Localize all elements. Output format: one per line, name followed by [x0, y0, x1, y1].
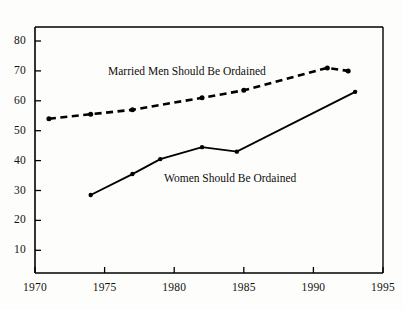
line-chart-plot — [0, 0, 403, 310]
data-point-marker — [353, 90, 357, 94]
chart-container: 1020304050607080 19701975198019851990199… — [0, 0, 403, 310]
series-annotation-label: Married Men Should Be Ordained — [108, 65, 266, 77]
x-tick-label: 1985 — [214, 282, 274, 294]
data-point-marker — [200, 145, 204, 149]
data-point-marker — [46, 116, 51, 121]
x-tick-label: 1975 — [75, 282, 135, 294]
x-tick-label: 1980 — [144, 282, 204, 294]
data-point-marker — [88, 112, 93, 117]
data-point-marker — [241, 88, 246, 93]
data-point-marker — [130, 107, 135, 112]
data-point-marker — [158, 157, 162, 161]
y-tick-label: 50 — [0, 125, 26, 137]
y-tick-label: 10 — [0, 244, 26, 256]
series-annotation-label: Women Should Be Ordained — [164, 172, 296, 184]
y-tick-label: 70 — [0, 65, 26, 77]
x-tick-label: 1970 — [5, 282, 65, 294]
data-point-marker — [235, 149, 239, 153]
y-tick-label: 30 — [0, 185, 26, 197]
y-tick-label: 80 — [0, 35, 26, 47]
data-point-marker — [130, 172, 134, 176]
x-tick-label: 1995 — [353, 282, 403, 294]
data-point-marker — [200, 95, 205, 100]
axis-frame — [35, 27, 383, 273]
y-tick-label: 20 — [0, 214, 26, 226]
data-point-marker — [325, 65, 330, 70]
y-tick-label: 60 — [0, 95, 26, 107]
data-point-marker — [346, 68, 351, 73]
y-tick-label: 40 — [0, 155, 26, 167]
data-point-marker — [88, 193, 92, 197]
x-tick-label: 1990 — [283, 282, 343, 294]
